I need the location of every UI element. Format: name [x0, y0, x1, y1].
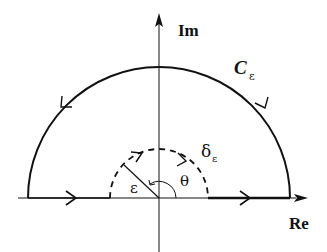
arc-arrow-icon — [255, 97, 268, 108]
big-contour-subscript: ε — [249, 70, 255, 83]
imag-axis-label: Im — [178, 21, 199, 40]
radius-label: ε — [130, 179, 138, 197]
big-contour-label: C — [234, 57, 247, 78]
small-contour-label: δ — [201, 141, 211, 161]
contour-diagram: Im Re C ε δ ε ε θ — [0, 0, 327, 252]
small-contour-subscript: ε — [212, 153, 217, 164]
angle-label: θ — [180, 172, 189, 190]
real-axis-arrow-icon — [294, 194, 308, 202]
real-axis-label: Re — [289, 214, 309, 233]
